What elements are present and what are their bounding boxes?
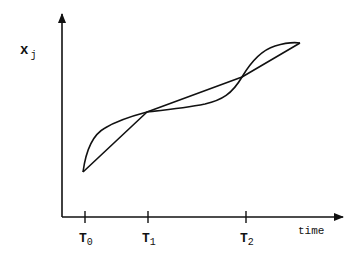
linear-segments bbox=[83, 43, 300, 172]
tick-label-t2: T2 bbox=[240, 231, 254, 248]
y-axis-label: xj bbox=[20, 42, 36, 61]
trajectory-diagram: xj T0 T1 T2 time bbox=[0, 0, 363, 255]
tick-label-t0: T0 bbox=[79, 231, 93, 248]
tick-label-t1: T1 bbox=[142, 231, 156, 248]
x-axis-label: time bbox=[298, 225, 324, 237]
